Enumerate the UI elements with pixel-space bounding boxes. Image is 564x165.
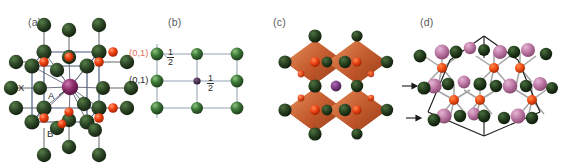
panel-b: (b) [141,0,271,165]
fraction-half-top: 1 2 [167,48,174,67]
a-cation-sphere [62,79,78,95]
panel-d: (d) [400,0,564,165]
panel-c: (c) [271,0,400,165]
panel-c-structure [271,0,400,165]
annotation-0-1-black: (0,1) [129,74,149,85]
site-label-a: A [48,90,54,101]
annotation-0-1-red: (0,1) [129,47,149,58]
fraction-half-center: 1 2 [207,74,214,93]
site-label-b: B [47,128,53,139]
site-label-x: X [18,82,24,93]
crystal-structure-figure: (a) [0,0,564,165]
panel-b-structure [141,0,271,165]
a-cation-sphere-c [331,81,342,92]
panel-d-structure [400,0,564,165]
panel-a: (a) [0,0,141,165]
center-purple-dot [193,77,200,84]
